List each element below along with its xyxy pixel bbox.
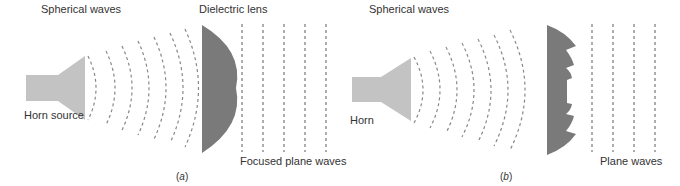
horn-b (352, 58, 411, 121)
label-horn-source: Horn source (24, 109, 84, 121)
label-dielectric-lens: Dielectric lens (199, 3, 267, 15)
label-plane-waves: Plane waves (600, 155, 662, 167)
zoned-lens-b (547, 25, 576, 155)
plane-waves-a (242, 24, 326, 152)
caption-b: (b) (500, 171, 512, 182)
caption-a: (a) (176, 171, 188, 182)
label-spherical-waves-b: Spherical waves (369, 3, 449, 15)
label-focused-plane-waves: Focused plane waves (240, 155, 346, 167)
label-spherical-waves-a: Spherical waves (41, 3, 121, 15)
label-horn: Horn (350, 114, 374, 126)
dielectric-lens-a (202, 25, 237, 153)
spherical-waves-a (88, 29, 199, 147)
plane-waves-b (592, 24, 655, 152)
spherical-waves-b (414, 30, 525, 150)
